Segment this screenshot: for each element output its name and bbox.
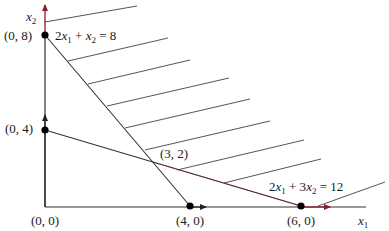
x1-sub: 1	[364, 220, 369, 230]
label-point-0-4: (0, 4)	[5, 122, 33, 135]
point-6-0	[297, 202, 304, 209]
c1-rhs: = 8	[96, 28, 116, 43]
label-point-0-8: (0, 8)	[4, 29, 32, 42]
point-4-0	[186, 202, 193, 209]
point-0-8	[41, 31, 48, 38]
constraint-label-1: 2x1 + x2 = 8	[55, 29, 116, 42]
x1-axis-label: x1	[358, 214, 368, 227]
label-point-4-0: (4, 0)	[176, 214, 204, 227]
point-0-4	[41, 126, 48, 133]
label-point-3-2: (3, 2)	[160, 147, 188, 160]
x2-sub: 2	[32, 16, 37, 26]
label-point-6-0: (6, 0)	[287, 214, 315, 227]
constraint-label-2: 2x1 + 3x2 = 12	[269, 180, 343, 193]
c1-op: +	[72, 28, 86, 43]
x2-axis-label: x2	[26, 10, 36, 23]
label-point-0-0: (0, 0)	[31, 214, 59, 227]
constraint-line-1	[45, 35, 190, 206]
c2-op: + 3	[286, 179, 306, 194]
c2-rhs: = 12	[316, 179, 343, 194]
